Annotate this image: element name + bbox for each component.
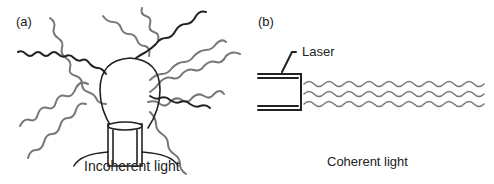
coherent-waves xyxy=(304,82,484,107)
diagram-root: (a) Incoherent light (b) Laser Coherent … xyxy=(0,0,494,184)
laser-label: Laser xyxy=(302,44,335,59)
panel-b-caption: Coherent light xyxy=(327,154,408,169)
laser-icon xyxy=(258,52,301,110)
panel-a-caption: Incoherent light xyxy=(84,158,180,174)
panel-a-label: (a) xyxy=(16,14,32,29)
diagram-graphics xyxy=(0,0,494,184)
incoherent-waves-dark xyxy=(18,12,210,109)
panel-b-label: (b) xyxy=(258,14,274,29)
